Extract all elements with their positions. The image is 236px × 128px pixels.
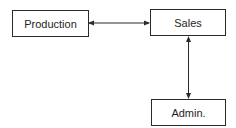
node-production: Production <box>12 10 89 37</box>
node-sales: Sales <box>150 9 226 36</box>
node-label-sales: Sales <box>174 17 202 29</box>
node-admin: Admin. <box>151 99 226 126</box>
node-label-admin: Admin. <box>171 107 205 119</box>
node-label-production: Production <box>24 18 77 30</box>
